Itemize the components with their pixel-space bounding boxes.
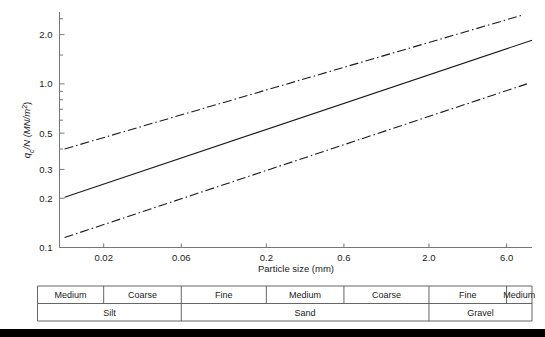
soil-type-cell: Sand [295,308,316,318]
y-tick-label: 1.0 [39,78,52,89]
grading-cell: Coarse [128,290,157,300]
x-tick-label: 0.6 [337,252,350,263]
figure-root: 0.10.20.30.51.02.0 0.020.060.20.62.06.0 … [0,0,545,337]
grading-cell: Medium [289,290,321,300]
bottom-bar [0,329,545,337]
y-tick-label: 2.0 [39,29,52,40]
soil-type-cell: Gravel [467,308,494,318]
x-tick-label: 0.06 [172,252,191,263]
soil-type-cell: Silt [103,308,116,318]
y-tick-label: 0.2 [39,193,52,204]
y-tick-label: 0.1 [39,242,52,253]
x-tick-label: 6.0 [500,252,513,263]
y-tick-label: 0.3 [39,164,52,175]
x-tick-label: 2.0 [422,252,435,263]
grading-cell: Fine [215,290,233,300]
x-tick-label: 0.2 [260,252,273,263]
y-tick-label: 0.5 [39,128,52,139]
x-axis-title: Particle size (mm) [258,263,334,274]
y-axis-title-rest: /N (MN/m [21,109,32,151]
x-tick-label: 0.02 [94,252,113,263]
grading-cell: Medium [503,290,535,300]
y-axis-title-tail: ) [21,102,32,105]
grading-cell: Medium [55,290,87,300]
grading-cell: Fine [459,290,477,300]
grading-cell: Coarse [372,290,401,300]
